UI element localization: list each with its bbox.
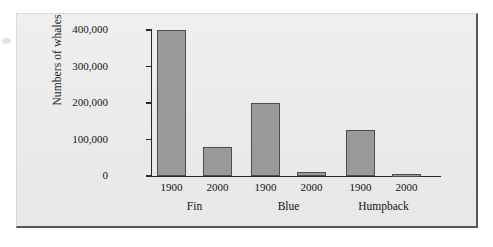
- x-label-blue-1900: 1900: [243, 181, 289, 193]
- y-tick-label-0: 0: [28, 169, 108, 181]
- y-tick-100000: [146, 139, 152, 140]
- bar-blue-1900[interactable]: [251, 103, 280, 176]
- y-tick-300000: [146, 66, 152, 67]
- x-label-fin-2000: 2000: [195, 181, 241, 193]
- bar-blue-2000[interactable]: [297, 172, 326, 176]
- bar-fin-1900[interactable]: [157, 30, 186, 176]
- x-label-blue-2000: 2000: [289, 181, 335, 193]
- y-tick-400000: [146, 29, 152, 30]
- y-tick-label-100000: 100,000: [28, 133, 108, 145]
- bar-fin-2000[interactable]: [203, 147, 232, 176]
- x-label-humpback-1900: 1900: [338, 181, 384, 193]
- whale-population-figure-panel: Numbers of whales 400,000 300,000 200,00…: [16, 13, 478, 228]
- bar-humpback-2000[interactable]: [392, 174, 421, 176]
- y-tick-label-200000: 200,000: [28, 96, 108, 108]
- y-tick-200000: [146, 102, 152, 103]
- y-tick-label-300000: 300,000: [28, 60, 108, 72]
- x-group-label-blue: Blue: [234, 200, 344, 212]
- x-label-humpback-2000: 2000: [384, 181, 430, 193]
- y-tick-0: [146, 175, 152, 176]
- bar-chart-plot-area: Numbers of whales 400,000 300,000 200,00…: [17, 14, 476, 226]
- bar-humpback-1900[interactable]: [346, 130, 375, 176]
- x-label-fin-1900: 1900: [149, 181, 195, 193]
- x-group-label-humpback: Humpback: [329, 200, 439, 212]
- y-tick-label-400000: 400,000: [28, 23, 108, 35]
- scan-artifact: [2, 38, 11, 44]
